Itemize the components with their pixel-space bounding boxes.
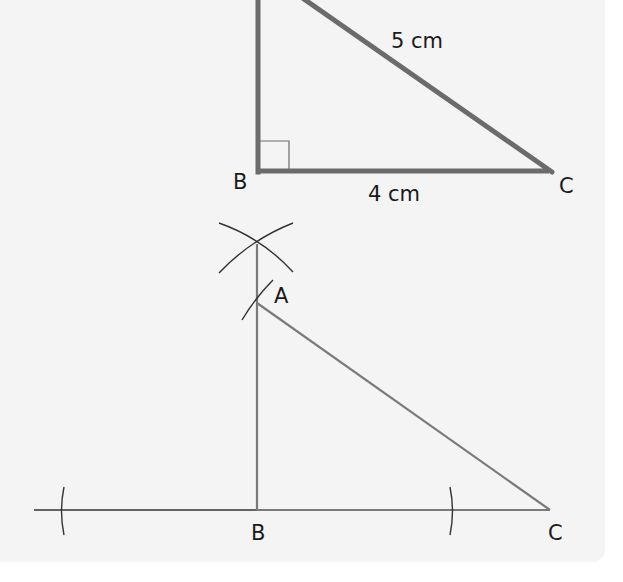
top-triangle (258, 0, 552, 172)
top-side-ac (291, 0, 552, 172)
bottom-vertex-a-label: A (274, 286, 288, 307)
bottom-vertex-b-label: B (251, 523, 265, 544)
geometry-figure (0, 0, 623, 582)
construction-arc-left (62, 487, 65, 535)
right-angle-marker (260, 141, 289, 169)
top-side-ac-length-label: 5 cm (391, 31, 443, 52)
top-side-bc-length-label: 4 cm (368, 184, 420, 205)
bottom-side-ac (257, 303, 550, 510)
top-vertex-b-label: B (233, 172, 247, 193)
bottom-triangle (34, 223, 550, 535)
bottom-vertex-c-label: C (548, 523, 563, 544)
top-vertex-c-label: C (559, 176, 574, 197)
